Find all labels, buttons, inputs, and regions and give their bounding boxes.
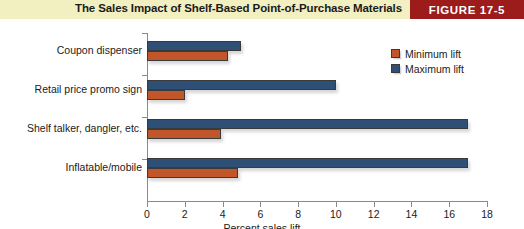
x-axis-tick: [298, 202, 299, 207]
x-axis-tick-label: 4: [211, 208, 235, 220]
y-axis-tick: [142, 117, 147, 118]
bar-maximum-lift-coupon-dispenser: [147, 41, 241, 51]
category-label-coupon-dispenser: Coupon dispenser: [0, 44, 142, 56]
page-title: The Sales Impact of Shelf-Based Point-of…: [75, 2, 402, 14]
x-axis-tick-label: 16: [437, 208, 461, 220]
x-axis-tick: [336, 202, 337, 207]
x-axis-tick: [223, 202, 224, 207]
x-axis-tick-label: 18: [475, 208, 499, 220]
x-axis-tick-label: 6: [248, 208, 272, 220]
figure-number-badge: FIGURE 17-5: [410, 0, 524, 19]
x-axis-tick: [487, 202, 488, 207]
legend-swatch-minimum-lift: [391, 49, 400, 58]
y-axis-tick: [142, 75, 147, 76]
x-axis-tick-label: 10: [324, 208, 348, 220]
x-axis-tick-label: 0: [135, 208, 159, 220]
category-label-retail-price-promo-sign: Retail price promo sign: [0, 83, 142, 95]
header-band: The Sales Impact of Shelf-Based Point-of…: [0, 0, 524, 19]
legend-item-minimum-lift: Minimum lift: [391, 46, 464, 61]
category-label-inflatable-mobile: Inflatable/mobile: [0, 161, 142, 173]
x-axis-tick-label: 12: [362, 208, 386, 220]
bar-minimum-lift-retail-price-promo-sign: [147, 90, 185, 100]
legend-label-maximum-lift: Maximum lift: [405, 63, 464, 75]
bar-maximum-lift-retail-price-promo-sign: [147, 80, 336, 90]
legend-item-maximum-lift: Maximum lift: [391, 61, 464, 76]
x-axis-tick-label: 14: [399, 208, 423, 220]
bar-minimum-lift-coupon-dispenser: [147, 51, 228, 61]
legend-label-minimum-lift: Minimum lift: [405, 48, 461, 60]
x-axis-tick-label: 8: [286, 208, 310, 220]
bar-maximum-lift-shelf-talker-dangler-etc: [147, 119, 468, 129]
category-label-shelf-talker-dangler: Shelf talker, dangler, etc.: [0, 122, 142, 134]
x-axis-title: Percent sales lift: [0, 222, 524, 229]
x-axis-tick: [260, 202, 261, 207]
legend-swatch-maximum-lift: [391, 64, 400, 73]
y-axis-tick: [142, 33, 147, 34]
x-axis-tick: [374, 202, 375, 207]
chart-legend: Minimum lift Maximum lift: [391, 46, 464, 76]
x-axis-tick: [185, 202, 186, 207]
x-axis-line: [147, 201, 488, 202]
chart-figure: Coupon dispenser Retail price promo sign…: [0, 19, 524, 229]
x-axis-tick: [449, 202, 450, 207]
bar-maximum-lift-inflatable-mobile: [147, 158, 468, 168]
bar-minimum-lift-inflatable-mobile: [147, 168, 238, 178]
x-axis-tick-label: 2: [173, 208, 197, 220]
bar-minimum-lift-shelf-talker-dangler-etc: [147, 129, 221, 139]
x-axis-tick: [147, 202, 148, 207]
x-axis-tick: [411, 202, 412, 207]
